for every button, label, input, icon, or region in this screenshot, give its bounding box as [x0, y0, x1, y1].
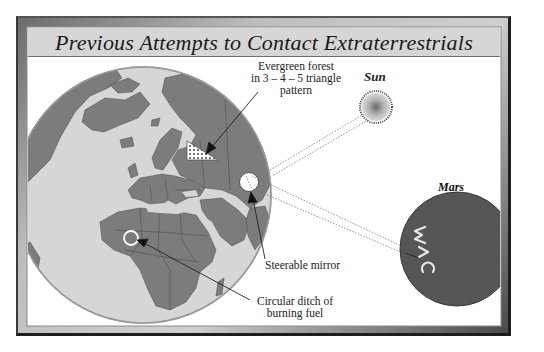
mirror-label: Steerable mirror — [265, 259, 365, 271]
mars-label: Mars — [438, 180, 464, 195]
sun-label: Sun — [364, 69, 386, 85]
ditch-label: Circular ditch of burning fuel — [240, 295, 350, 319]
mars-planet-icon — [400, 192, 514, 306]
forest-label: Evergreen forest in 3 – 4 – 5 triangle p… — [238, 60, 354, 96]
page-title: Previous Attempts to Contact Extraterres… — [28, 28, 500, 56]
